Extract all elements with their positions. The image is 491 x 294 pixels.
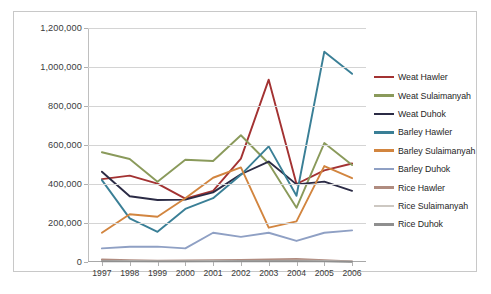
legend-color-swatch: [374, 168, 394, 171]
x-axis-tick: [130, 262, 131, 266]
gridline: [88, 145, 366, 146]
legend-label: Rice Duhok: [398, 219, 443, 229]
legend-label: Barley Sulaimanyah: [398, 146, 475, 156]
legend-color-swatch: [374, 76, 394, 79]
series-line: [102, 52, 352, 232]
x-axis-tick-label: 1997: [92, 268, 111, 278]
legend-label: Rice Sulaimanyah: [398, 201, 468, 211]
legend-color-swatch: [374, 131, 394, 134]
x-axis-tick: [297, 262, 298, 266]
x-axis-tick: [158, 262, 159, 266]
x-axis-tick: [324, 262, 325, 266]
x-axis-tick: [241, 262, 242, 266]
legend-label: Weat Hawler: [398, 72, 448, 82]
y-axis-tick-label: 400,000: [48, 179, 82, 189]
y-axis-tick-label: 800,000: [48, 101, 82, 111]
y-axis-tick: [84, 67, 88, 68]
figure-caption: [14, 281, 474, 292]
legend-item[interactable]: Weat Sulaimanyah: [374, 86, 491, 104]
legend-item[interactable]: Barley Hawler: [374, 123, 491, 141]
gridline: [88, 28, 366, 29]
gridline: [88, 106, 366, 107]
legend-label: Weat Sulaimanyah: [398, 91, 471, 101]
legend-color-swatch: [374, 94, 394, 97]
legend-color-swatch: [374, 186, 394, 189]
x-axis-tick: [269, 262, 270, 266]
legend-color-swatch: [374, 149, 394, 152]
x-axis-tick-label: 1998: [120, 268, 139, 278]
x-axis-tick-label: 1999: [148, 268, 167, 278]
y-axis-tick: [84, 145, 88, 146]
legend-item[interactable]: Rice Duhok: [374, 215, 491, 233]
y-axis-labels: 0200,000400,000600,000800,0001,000,0001,…: [14, 12, 86, 271]
y-axis-tick: [84, 262, 88, 263]
legend-color-swatch: [374, 113, 394, 116]
chart-legend: Weat HawlerWeat SulaimanyahWeat DuhokBar…: [374, 68, 491, 234]
legend-color-swatch: [374, 205, 394, 208]
legend-label: Weat Duhok: [398, 109, 446, 119]
x-axis-tick-label: 2000: [176, 268, 195, 278]
y-axis-tick-label: 600,000: [48, 140, 82, 150]
legend-item[interactable]: Weat Hawler: [374, 68, 491, 86]
x-axis-tick-label: 2001: [204, 268, 223, 278]
x-axis-tick-label: 2006: [343, 268, 362, 278]
y-axis-tick-label: 200,000: [48, 218, 82, 228]
x-axis-tick-label: 2004: [287, 268, 306, 278]
y-axis-tick-label: 1,000,000: [40, 62, 82, 72]
plot-area: [88, 28, 366, 262]
y-axis-tick-label: 1,200,000: [40, 23, 82, 33]
gridline: [88, 67, 366, 68]
gridline: [88, 223, 366, 224]
x-axis-tick-label: 2003: [259, 268, 278, 278]
legend-item[interactable]: Rice Sulaimanyah: [374, 197, 491, 215]
series-line: [102, 230, 352, 248]
y-axis-tick: [84, 184, 88, 185]
chart-screenshot: 0200,000400,000600,000800,0001,000,0001,…: [0, 0, 491, 294]
legend-item[interactable]: Weat Duhok: [374, 105, 491, 123]
legend-item[interactable]: Barley Duhok: [374, 160, 491, 178]
x-axis-tick: [102, 262, 103, 266]
gridline: [88, 184, 366, 185]
legend-color-swatch: [374, 223, 394, 226]
y-axis-tick: [84, 223, 88, 224]
x-axis-tick: [213, 262, 214, 266]
legend-item[interactable]: Barley Sulaimanyah: [374, 142, 491, 160]
legend-item[interactable]: Rice Hawler: [374, 178, 491, 196]
x-axis-labels: 1997199819992000200120022003200420052006: [88, 268, 366, 282]
x-axis-tick: [185, 262, 186, 266]
y-axis-tick: [84, 28, 88, 29]
y-axis-tick: [84, 106, 88, 107]
x-axis-tick-label: 2002: [231, 268, 250, 278]
legend-label: Rice Hawler: [398, 183, 445, 193]
x-axis-tick: [352, 262, 353, 266]
chart-frame: 0200,000400,000600,000800,0001,000,0001,…: [13, 11, 477, 272]
legend-label: Barley Hawler: [398, 127, 452, 137]
x-axis-tick-label: 2005: [315, 268, 334, 278]
legend-label: Barley Duhok: [398, 164, 450, 174]
y-axis-tick-label: 0: [77, 257, 82, 267]
series-line: [102, 261, 352, 262]
